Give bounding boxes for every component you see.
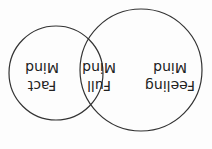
intersection-label-line1: Full (87, 78, 111, 94)
feeling-label-line1: Feeling (145, 78, 195, 94)
intersection-label-line2: Mind (82, 60, 116, 76)
feeling-label-line2: Mind (153, 60, 187, 76)
fact-label-line2: Mind (25, 60, 59, 76)
fact-label-line1: Fact (27, 78, 56, 94)
venn-diagram: Feeling Mind Full Mind Fact Mind (0, 0, 212, 149)
rotated-diagram: Feeling Mind Full Mind Fact Mind (0, 0, 212, 149)
venn-diagram-stage: Feeling Mind Full Mind Fact Mind (0, 0, 212, 149)
